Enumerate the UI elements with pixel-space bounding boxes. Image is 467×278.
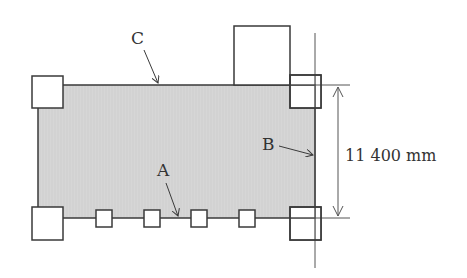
column-top-left xyxy=(32,76,63,108)
label-b: B xyxy=(262,136,275,153)
edge-square-2 xyxy=(144,210,160,227)
edge-square-3 xyxy=(191,210,207,227)
column-bottom-left xyxy=(32,207,63,240)
edge-square-1 xyxy=(96,210,112,227)
top-box xyxy=(234,26,290,85)
label-a: A xyxy=(157,162,169,179)
structural-plan-diagram xyxy=(0,0,467,278)
edge-square-4 xyxy=(239,210,255,227)
leader-arrow-c-icon xyxy=(144,50,158,83)
label-c: C xyxy=(131,30,144,47)
dimension-label: 11 400 mm xyxy=(345,148,436,164)
